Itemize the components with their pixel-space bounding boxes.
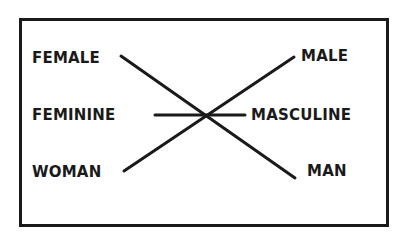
label-male: MALE bbox=[301, 48, 348, 64]
label-man: MAN bbox=[307, 163, 347, 179]
label-woman: WOMAN bbox=[32, 164, 101, 180]
label-feminine: FEMININE bbox=[32, 107, 116, 123]
label-female: FEMALE bbox=[32, 50, 100, 66]
label-masculine: MASCULINE bbox=[251, 107, 351, 123]
